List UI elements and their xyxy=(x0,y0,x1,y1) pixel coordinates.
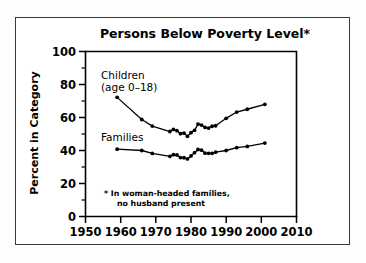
data-point xyxy=(179,132,183,136)
data-point xyxy=(263,141,267,145)
children-series-label-line2: (age 0–18) xyxy=(101,81,157,93)
data-point xyxy=(224,149,228,153)
data-point xyxy=(263,102,267,106)
footnote-line-1: * In woman-headed families, xyxy=(104,189,230,198)
footnote-line-2: no husband present xyxy=(117,199,205,208)
data-point xyxy=(235,146,239,150)
data-point xyxy=(168,130,172,134)
figure-container: Persons Below Poverty Level* Percent in … xyxy=(0,0,366,263)
y-axis-title: Percent in Category xyxy=(28,71,41,195)
data-point xyxy=(172,153,176,157)
x-tick-label-1950: 1950 xyxy=(69,225,101,239)
data-point xyxy=(140,118,144,122)
x-tick-label-2010: 2010 xyxy=(280,225,312,239)
data-point xyxy=(115,147,119,151)
x-tick-label-1980: 1980 xyxy=(175,225,207,239)
y-tick-label-0: 0 xyxy=(68,210,76,224)
data-point xyxy=(207,151,211,155)
data-point xyxy=(186,134,190,138)
y-tick-label-80: 80 xyxy=(60,78,76,92)
data-point xyxy=(150,152,154,156)
data-point xyxy=(200,123,204,127)
data-point xyxy=(214,150,218,154)
chart-title: Persons Below Poverty Level* xyxy=(100,26,311,41)
data-point xyxy=(150,124,154,128)
y-tick-label-20: 20 xyxy=(60,177,76,191)
data-point xyxy=(189,131,193,135)
data-point xyxy=(193,151,197,155)
x-tick-label-1970: 1970 xyxy=(140,225,172,239)
y-tick-label-40: 40 xyxy=(60,144,76,158)
x-tick-label-2000: 2000 xyxy=(245,225,277,239)
data-point xyxy=(175,129,179,133)
data-point xyxy=(245,107,249,111)
children-series-label-line1: Children xyxy=(101,69,145,81)
data-point xyxy=(182,156,186,160)
data-point xyxy=(182,131,186,135)
data-point xyxy=(189,154,193,158)
families-series-markers xyxy=(115,141,267,161)
data-point xyxy=(193,128,197,132)
data-point xyxy=(186,157,190,161)
poverty-level-line-chart: Persons Below Poverty Level* Percent in … xyxy=(0,0,366,263)
data-point xyxy=(196,148,200,152)
data-point xyxy=(203,151,207,155)
data-point xyxy=(207,126,211,130)
data-point xyxy=(196,122,200,126)
series-families xyxy=(115,141,267,161)
data-point xyxy=(175,153,179,157)
data-point xyxy=(179,156,183,160)
data-point xyxy=(235,110,239,114)
data-point xyxy=(168,154,172,158)
y-axis-tick-labels: 0 20 40 60 80 100 xyxy=(52,45,76,224)
data-point xyxy=(210,124,214,128)
data-point xyxy=(224,116,228,120)
data-point xyxy=(214,124,218,128)
data-point xyxy=(172,127,176,131)
data-point xyxy=(140,149,144,153)
x-tick-label-1960: 1960 xyxy=(105,225,137,239)
data-point xyxy=(203,126,207,130)
data-point xyxy=(210,151,214,155)
y-tick-label-60: 60 xyxy=(60,111,76,125)
x-tick-label-1990: 1990 xyxy=(210,225,242,239)
families-series-label: Families xyxy=(101,131,143,143)
data-point xyxy=(200,148,204,152)
data-point xyxy=(115,95,119,99)
x-axis-major-ticks xyxy=(86,217,297,224)
data-point xyxy=(245,144,249,148)
y-tick-label-100: 100 xyxy=(52,45,76,59)
x-axis-tick-labels: 1950 1960 1970 1980 1990 2000 2010 xyxy=(69,225,312,239)
